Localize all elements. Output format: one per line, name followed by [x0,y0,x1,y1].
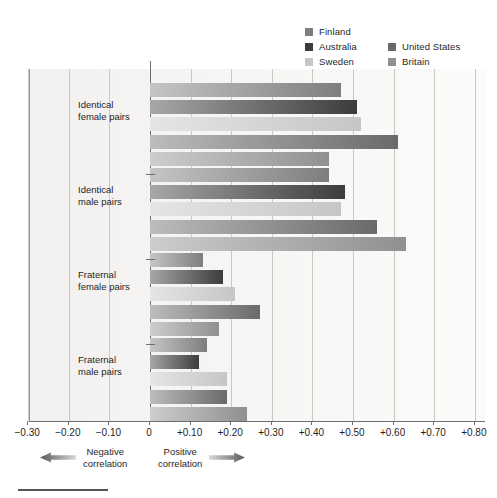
axis-tick [68,421,69,425]
axis-tick-label: +0.50 [339,427,364,438]
bottom-divider [18,489,108,491]
axis-tick-label: 0 [146,427,152,438]
twin-correlation-bar-chart: Finland Australia Sweden United States B… [0,0,497,498]
category-label: Fraternal female pairs [78,269,130,292]
axis-tick [311,421,312,425]
legend-item-britain: Britain [388,54,460,69]
category-label: Identical male pairs [78,184,122,207]
bar [150,135,398,149]
legend-item-finland: Finland [305,24,357,39]
group-separator-tick [146,174,155,175]
gridline [28,69,29,421]
bar [150,152,329,166]
axis-tick [474,421,475,425]
correlation-annotations: Negative correlation Positive correlatio… [0,444,497,478]
axis-tick-label: −0.30 [15,427,40,438]
legend-label-australia: Australia [319,42,357,52]
axis-tick [149,421,150,425]
positive-correlation-label: Positive correlation [158,446,202,469]
bar [150,355,199,369]
legend-swatch-britain [388,58,396,66]
category-label: Fraternal male pairs [78,354,122,377]
axis-tick-label: +0.30 [258,427,283,438]
axis-tick-label: +0.70 [421,427,446,438]
negative-correlation-label: Negative correlation [83,446,127,469]
bar [150,390,227,404]
bar [150,407,247,421]
axis-tick-label: +0.10 [177,427,202,438]
bar [150,287,235,301]
legend-item-united-states: United States [388,39,460,54]
axis-tick [27,421,28,425]
bar [150,100,357,114]
legend-label-united-states: United States [402,42,460,52]
axis-tick [433,421,434,425]
axis-tick-label: +0.60 [380,427,405,438]
axis-tick [393,421,394,425]
axis-tick-label: +0.40 [299,427,324,438]
legend-swatch-sweden [305,58,313,66]
legend-label-sweden: Sweden [319,57,354,67]
right-arrow-icon [209,452,245,463]
bar [150,270,223,284]
axis-tick [352,421,353,425]
axis-tick [230,421,231,425]
legend-item-australia: Australia [305,39,357,54]
bar [150,202,341,216]
legend-column-2: United States Britain [388,39,460,69]
bar [150,237,406,251]
axis-tick [271,421,272,425]
negative-correlation-annotation: Negative correlation [40,446,127,469]
bar [150,305,260,319]
legend-swatch-united-states [388,43,396,51]
bar [150,117,361,131]
bar [150,322,219,336]
gridline [434,69,435,421]
bar [150,338,207,352]
bar [150,220,377,234]
axis-tick [108,421,109,425]
legend-item-sweden: Sweden [305,54,357,69]
axis-tick [190,421,191,425]
bar [150,168,329,182]
legend-label-finland: Finland [319,27,351,37]
legend-swatch-australia [305,43,313,51]
gridline [69,69,70,421]
legend-swatch-finland [305,28,313,36]
gridline [475,69,476,421]
axis-tick-label: −0.10 [96,427,121,438]
positive-correlation-annotation: Positive correlation [158,446,245,469]
bar [150,253,203,267]
group-separator-tick [146,259,155,260]
group-separator-tick [146,344,155,345]
bar [150,372,227,386]
axis-tick-label: +0.20 [218,427,243,438]
bar [150,83,341,97]
axis-tick-label: −0.20 [55,427,80,438]
legend-label-britain: Britain [402,57,430,67]
legend-column-1: Finland Australia Sweden [305,24,357,69]
x-axis-line [29,421,485,422]
category-label: Identical female pairs [78,99,130,122]
plot-area: Identical female pairsIdentical male pai… [29,69,485,421]
left-arrow-icon [40,452,76,463]
axis-tick-label: +0.80 [461,427,486,438]
chart-legend: Finland Australia Sweden United States B… [305,24,495,70]
bar [150,185,345,199]
